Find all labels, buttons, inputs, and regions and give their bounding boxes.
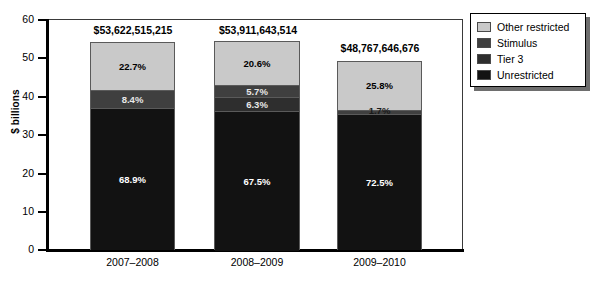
legend-item-unrestricted[interactable]: Unrestricted: [477, 67, 580, 83]
bar-segment-stimulus[interactable]: 8.4%: [91, 91, 174, 108]
stacked-bar-2007-2008[interactable]: 22.7% 8.4% 68.9%: [90, 42, 175, 250]
y-tick-50: [38, 57, 46, 59]
y-tick-label-0: 0: [4, 243, 34, 255]
y-tick-label-30: 30: [4, 128, 34, 140]
legend-label: Stimulus: [497, 37, 537, 49]
legend-swatch-icon: [477, 38, 491, 48]
legend-label: Other restricted: [497, 21, 569, 33]
legend-label: Tier 3: [497, 53, 523, 65]
stacked-bar-2009-2010[interactable]: 25.8% 1.7% 72.5%: [337, 61, 422, 250]
y-tick-0: [38, 249, 46, 251]
y-tick-label-10: 10: [4, 205, 34, 217]
bar-segment-unrestricted[interactable]: 68.9%: [91, 109, 174, 250]
bar-segment-other-restricted[interactable]: 20.6%: [215, 42, 299, 85]
bar-segment-unrestricted[interactable]: 72.5%: [338, 115, 421, 249]
x-axis-label-2008-2009: 2008–2009: [214, 256, 300, 268]
bar-segment-other-restricted[interactable]: 22.7%: [91, 43, 174, 90]
y-tick-60: [38, 19, 46, 21]
x-axis-label-2009-2010: 2009–2010: [337, 256, 422, 268]
bar-total-label: $53,911,643,514: [172, 24, 344, 36]
y-tick-label-40: 40: [4, 90, 34, 102]
bar-segment-unrestricted[interactable]: 67.5%: [215, 112, 299, 250]
segment-percent-label: 72.5%: [366, 178, 393, 188]
segment-percent-label: 8.4%: [122, 95, 144, 105]
x-axis-label-2007-2008: 2007–2008: [90, 256, 175, 268]
stacked-bar-2008-2009[interactable]: 20.6% 5.7% 6.3% 67.5%: [214, 41, 300, 250]
bar-segment-stimulus[interactable]: 1.7%: [338, 111, 421, 114]
stacked-bar-chart: $ billions 60 50 40 30 20 10 0 $53,622,5…: [0, 0, 595, 281]
legend: Other restricted Stimulus Tier 3 Unrestr…: [470, 13, 586, 87]
segment-percent-label: 6.3%: [246, 100, 268, 110]
segment-percent-label: 68.9%: [119, 175, 146, 185]
bar-segment-stimulus[interactable]: 5.7%: [215, 86, 299, 98]
y-axis-line: [46, 19, 49, 252]
legend-swatch-icon: [477, 54, 491, 64]
legend-item-other-restricted[interactable]: Other restricted: [477, 19, 580, 35]
legend-label: Unrestricted: [497, 69, 554, 81]
y-tick-label-20: 20: [4, 167, 34, 179]
bar-total-label: $48,767,646,676: [294, 42, 466, 54]
segment-percent-label: 22.7%: [119, 62, 146, 72]
segment-percent-label: 25.8%: [366, 81, 393, 91]
y-tick-20: [38, 173, 46, 175]
segment-percent-label: 1.7%: [369, 106, 391, 116]
legend-swatch-icon: [477, 70, 491, 80]
legend-swatch-icon: [477, 22, 491, 32]
bar-segment-other-restricted[interactable]: 25.8%: [338, 62, 421, 110]
segment-percent-label: 5.7%: [246, 87, 268, 97]
segment-percent-label: 20.6%: [244, 59, 271, 69]
y-tick-label-50: 50: [4, 51, 34, 63]
y-tick-30: [38, 134, 46, 136]
legend-item-tier-3[interactable]: Tier 3: [477, 51, 580, 67]
y-tick-10: [38, 211, 46, 213]
segment-percent-label: 67.5%: [244, 177, 271, 187]
legend-item-stimulus[interactable]: Stimulus: [477, 35, 580, 51]
y-tick-40: [38, 96, 46, 98]
bar-segment-tier-3[interactable]: 6.3%: [215, 98, 299, 111]
y-axis-title: $ billions: [10, 67, 21, 157]
y-tick-label-60: 60: [4, 13, 34, 25]
